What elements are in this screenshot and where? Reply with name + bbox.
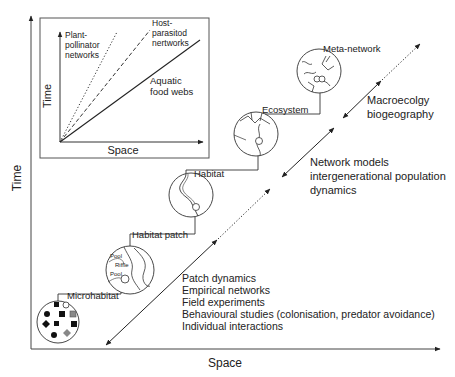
meta-network-label: Meta-network — [323, 43, 381, 54]
small-scale-extension — [218, 189, 270, 239]
pool-label-1: Pool — [110, 253, 122, 259]
ecosystem-circle: Ecosystem — [234, 104, 309, 156]
microhabitat-circle: Microhabitat — [37, 290, 119, 343]
large-scale-extension — [382, 44, 420, 80]
inset-xlabel: Space — [107, 144, 138, 156]
inset-chart: Time Space Plant- pollinator networks Ho… — [40, 18, 209, 158]
habitat-patch-circle: Pool Riffle Pool Habitat patch — [106, 229, 188, 294]
habitat-patch-label: Habitat patch — [132, 229, 188, 240]
habitat-label: Habitat — [194, 168, 224, 179]
ecosystem-label: Ecosystem — [262, 104, 309, 115]
outer-xlabel: Space — [208, 356, 242, 370]
riffle-label: Riffle — [115, 262, 129, 268]
intermediate-scale-approaches: Network models intergenerational populat… — [310, 156, 449, 196]
large-scale-approaches: Macroecolgy biogeography — [367, 94, 434, 120]
scale-diagram: Time Space Time Space Plant- pollinator … — [0, 0, 455, 377]
inset-ylabel: Time — [41, 84, 53, 108]
small-scale-approaches: Patch dynamics Empirical networks Field … — [182, 272, 438, 332]
microhabitat-label: Microhabitat — [67, 290, 119, 301]
habitat-circle: Habitat — [169, 168, 224, 217]
meta-network-circle: Meta-network — [297, 43, 381, 93]
outer-ylabel: Time — [10, 165, 24, 192]
pool-label-2: Pool — [110, 271, 122, 277]
